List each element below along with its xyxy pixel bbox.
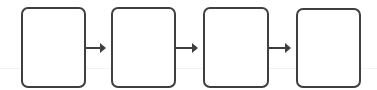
flow-box-2 (111, 7, 176, 88)
arrow-icon-2-to-3 (176, 47, 193, 49)
flow-box-1 (21, 7, 86, 88)
flow-box-3 (203, 7, 269, 88)
flow-box-4 (296, 8, 361, 88)
arrow-icon-1-to-2 (86, 47, 101, 49)
arrow-icon-3-to-4 (269, 47, 286, 49)
